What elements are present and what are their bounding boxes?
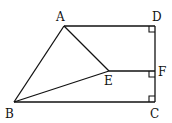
segment-AB <box>14 26 64 102</box>
segment-AE <box>64 26 109 71</box>
geometry-diagram: A D E F B C <box>0 0 172 123</box>
label-A: A <box>55 10 65 24</box>
label-E: E <box>104 74 113 88</box>
label-C: C <box>150 107 159 121</box>
right-angle-D-icon <box>149 26 155 32</box>
right-angle-C-icon <box>149 96 155 102</box>
right-angle-F-icon <box>149 71 155 77</box>
label-B: B <box>5 107 14 121</box>
segment-BE <box>14 71 109 102</box>
label-F: F <box>158 65 166 79</box>
label-D: D <box>152 10 162 24</box>
